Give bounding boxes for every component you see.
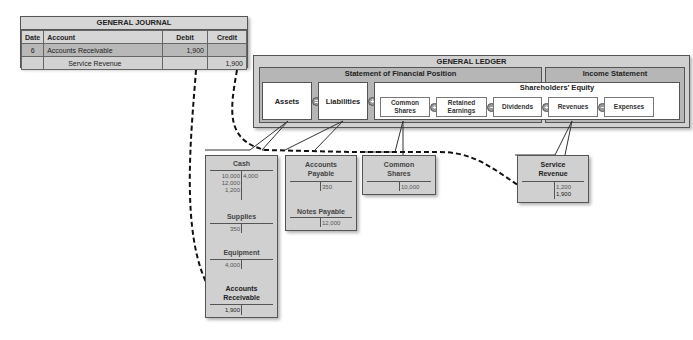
ar-debits: 1,900	[210, 307, 240, 314]
cash-credits: 4,000	[243, 173, 258, 180]
sr-credits: 1,200 1,900	[556, 184, 571, 198]
cash-debits: 10,000 12,000 1,200	[210, 173, 240, 194]
equipment-account-name: Equipment	[205, 248, 278, 257]
t-line	[290, 181, 352, 182]
t-divider	[241, 223, 242, 233]
t-divider	[241, 304, 242, 315]
t-divider	[399, 181, 400, 191]
t-divider	[320, 181, 321, 191]
t-divider	[241, 259, 242, 269]
cs-credits: 10,000	[401, 184, 419, 191]
cash-account-name: Cash	[205, 159, 278, 168]
t-divider	[554, 181, 555, 199]
t-line	[290, 217, 352, 218]
equipment-debits: 4,000	[210, 262, 240, 269]
t-divider	[320, 217, 321, 227]
np-credits: 12,000	[322, 220, 340, 227]
ar-account-name: Accounts Receivable	[215, 284, 268, 302]
cs-account-name: Common Shares	[377, 160, 421, 178]
supplies-debits: 350	[210, 226, 240, 233]
ap-credits: 350	[322, 184, 332, 191]
t-divider	[241, 170, 242, 200]
ap-account-name: Accounts Payable	[297, 160, 345, 178]
supplies-account-name: Supplies	[205, 212, 278, 221]
sr-account-name: Service Revenue	[527, 160, 579, 178]
t-line	[522, 181, 584, 182]
np-account-name: Notes Payable	[285, 207, 357, 216]
